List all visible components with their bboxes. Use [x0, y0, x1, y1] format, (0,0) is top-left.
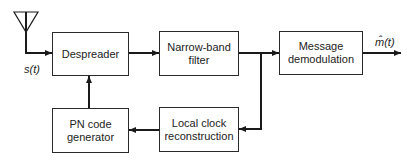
- block-label: PN code generator: [67, 118, 114, 144]
- block-pn-code-generator: PN code generator: [52, 108, 129, 153]
- block-despreader: Despreader: [52, 32, 129, 76]
- block-label: Local clock reconstruction: [164, 117, 233, 143]
- diagram-canvas: Despreader Narrow-band filter Message de…: [0, 0, 413, 164]
- output-signal-label: m̂(t): [375, 36, 395, 48]
- block-narrowband-filter: Narrow-band filter: [159, 31, 239, 76]
- input-signal-label: s(t): [24, 63, 40, 75]
- block-label: Despreader: [62, 48, 119, 61]
- antenna-icon: [14, 12, 38, 53]
- block-label: Message demodulation: [288, 40, 354, 66]
- block-local-clock-reconstruction: Local clock reconstruction: [159, 107, 239, 152]
- block-message-demodulation: Message demodulation: [279, 31, 363, 75]
- block-label: Narrow-band filter: [167, 41, 231, 67]
- arrow-filter-to-clock: [239, 53, 261, 129]
